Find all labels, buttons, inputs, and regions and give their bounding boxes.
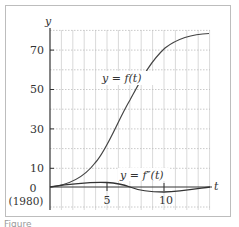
y-tick-30: 30 <box>30 123 44 136</box>
x-tick-5: 5 <box>104 194 111 207</box>
x-tick-10: 10 <box>159 194 173 207</box>
y-tick-50: 50 <box>30 83 44 96</box>
curve-fpp-label: y = f″(t) <box>119 169 164 182</box>
figure-caption: Figure <box>4 219 31 227</box>
x-axis-label: t <box>214 180 219 193</box>
y-tick-10: 10 <box>30 162 44 175</box>
curve-f-label: y = f(t) <box>101 72 142 85</box>
y-tick-70: 70 <box>30 44 44 57</box>
y-tick-1980: (1980) <box>9 195 44 207</box>
chart: y t 70 50 30 10 0 (1980) 5 10 y = f(t) y… <box>0 0 239 227</box>
y-tick-0: 0 <box>30 182 37 195</box>
y-axis-label: y <box>44 15 52 28</box>
